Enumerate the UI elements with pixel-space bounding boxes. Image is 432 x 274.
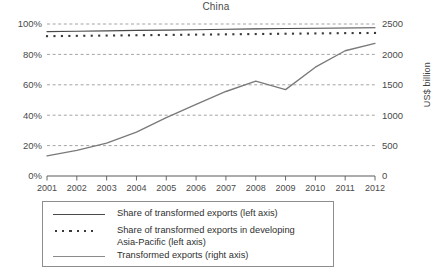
series-dot — [180, 34, 182, 36]
series-dot — [128, 34, 130, 36]
series-dot — [314, 32, 316, 34]
legend-label-1-line2: Asia-Pacific (left axis) — [117, 237, 206, 247]
svg-text:2008: 2008 — [246, 183, 266, 193]
series-dot — [188, 34, 190, 36]
legend-item-share-developing-asia-pacific[interactable]: Share of transformed exports in developi… — [43, 225, 333, 248]
chart-legend: Share of transformed exports (left axis)… — [42, 201, 334, 267]
svg-text:100%: 100% — [18, 18, 43, 29]
chart-plot-area: 0%20%40%60%80%100% 05001000150020002500 … — [0, 0, 432, 200]
svg-text:20%: 20% — [23, 140, 43, 151]
series-dot — [337, 32, 339, 34]
gridlines — [47, 24, 375, 146]
series-dot — [158, 34, 160, 36]
svg-text:2001: 2001 — [37, 183, 57, 193]
series-dot — [277, 33, 279, 35]
legend-item-share-transformed-exports[interactable]: Share of transformed exports (left axis) — [43, 208, 333, 220]
series-dot — [225, 33, 227, 35]
series-dot — [255, 33, 257, 35]
svg-text:2012: 2012 — [365, 183, 385, 193]
series-dot — [329, 32, 331, 34]
svg-text:2011: 2011 — [336, 183, 355, 193]
series-dot — [53, 35, 55, 37]
svg-text:2004: 2004 — [126, 183, 146, 193]
legend-label-0: Share of transformed exports (left axis) — [111, 208, 278, 220]
x-axis-ticks — [47, 176, 375, 181]
series-dot — [46, 35, 48, 37]
series-dot — [173, 34, 175, 36]
y-axis-right-labels: 05001000150020002500 — [382, 18, 403, 181]
legend-dotted-icon — [49, 225, 111, 237]
series-dot — [61, 35, 63, 37]
series-dot — [68, 35, 70, 37]
series-dot — [307, 32, 309, 34]
series-dot — [270, 33, 272, 35]
x-axis-tick-labels: 2001200220032004200520062007200820092010… — [37, 183, 385, 193]
svg-text:2007: 2007 — [216, 183, 236, 193]
svg-text:2003: 2003 — [97, 183, 117, 193]
series-dot — [322, 32, 324, 34]
svg-text:80%: 80% — [23, 49, 43, 60]
svg-text:2006: 2006 — [186, 183, 206, 193]
right-axis-title: US$ billion — [422, 62, 432, 107]
series-dot — [359, 32, 361, 34]
legend-label-1: Share of transformed exports in developi… — [111, 225, 295, 248]
series-dot — [113, 34, 115, 36]
series-dot — [76, 35, 78, 37]
chart-figure: China 0%20%40%60%80%100% 050010001500200… — [0, 0, 432, 274]
svg-text:1000: 1000 — [382, 110, 403, 121]
legend-label-1-line1: Share of transformed exports in developi… — [117, 225, 295, 235]
svg-text:500: 500 — [382, 140, 398, 151]
series-dot — [135, 34, 137, 36]
series-dot — [165, 34, 167, 36]
series-dot — [98, 35, 100, 37]
svg-text:2000: 2000 — [382, 49, 403, 60]
series-dot — [210, 33, 212, 35]
series-dot — [284, 33, 286, 35]
legend-item-transformed-exports[interactable]: Transformed exports (right axis) — [43, 250, 333, 262]
series-dot — [91, 35, 93, 37]
series-dot — [83, 35, 85, 37]
svg-text:2010: 2010 — [305, 183, 325, 193]
series-line-2 — [47, 43, 375, 155]
legend-line-solid-light-icon — [49, 250, 111, 262]
svg-text:2002: 2002 — [67, 183, 87, 193]
series-dot — [262, 33, 264, 35]
series-dot — [247, 33, 249, 35]
svg-text:60%: 60% — [23, 79, 43, 90]
data-series-group — [46, 28, 376, 156]
series-dot — [344, 32, 346, 34]
series-dot — [150, 34, 152, 36]
svg-text:2009: 2009 — [276, 183, 296, 193]
y-axis-left-labels: 0%20%40%60%80%100% — [18, 18, 43, 181]
svg-text:1500: 1500 — [382, 79, 403, 90]
series-dot — [292, 33, 294, 35]
series-dot — [120, 34, 122, 36]
legend-line-solid-dark-icon — [49, 208, 111, 220]
series-dot — [232, 33, 234, 35]
series-dot — [143, 34, 145, 36]
svg-text:40%: 40% — [23, 110, 43, 121]
series-dot — [299, 33, 301, 35]
series-dot — [217, 33, 219, 35]
svg-text:0: 0 — [382, 170, 387, 181]
series-line-0 — [47, 28, 375, 32]
series-dot — [240, 33, 242, 35]
legend-label-2: Transformed exports (right axis) — [111, 250, 248, 262]
series-dot — [366, 32, 368, 34]
series-dot — [202, 34, 204, 36]
series-dot — [352, 32, 354, 34]
svg-text:2500: 2500 — [382, 18, 403, 29]
svg-text:2005: 2005 — [156, 183, 176, 193]
series-dot — [195, 34, 197, 36]
svg-text:0%: 0% — [28, 170, 42, 181]
series-dot — [106, 35, 108, 37]
